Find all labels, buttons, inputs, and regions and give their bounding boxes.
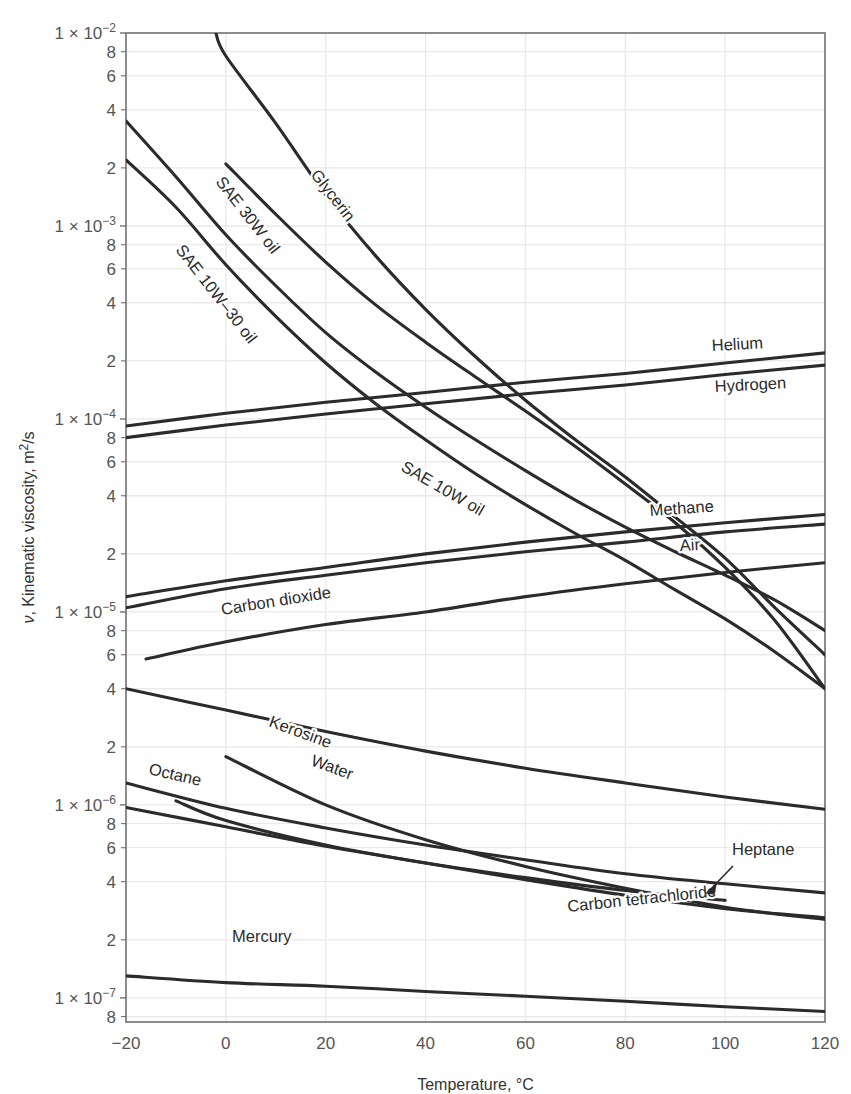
curve-label-helium: HeliumHelium: [711, 333, 763, 354]
y-tick-label-minor: 8: [107, 815, 116, 834]
curve-label-text: Mercury: [232, 927, 292, 945]
curve-label-heptane: HeptaneHeptane: [732, 840, 794, 858]
y-tick-label-minor: 8: [107, 1008, 116, 1027]
y-tick-label-minor: 2: [107, 545, 116, 564]
y-tick-label-minor: 8: [107, 622, 116, 641]
y-tick-label-minor: 4: [107, 873, 116, 892]
y-tick-label-minor: 2: [107, 931, 116, 950]
y-tick-label-minor: 6: [107, 646, 116, 665]
x-tick-label: 60: [516, 1034, 535, 1053]
curve-label-text: Air: [679, 535, 701, 554]
y-tick-label-minor: 2: [107, 159, 116, 178]
curve-label-hydrogen: HydrogenHydrogen: [714, 373, 786, 395]
y-tick-label-minor: 6: [107, 67, 116, 86]
y-tick-label-minor: 8: [107, 236, 116, 255]
y-tick-label-minor: 4: [107, 294, 116, 313]
y-tick-label-minor: 4: [107, 101, 116, 120]
y-tick-label-minor: 4: [107, 487, 116, 506]
x-tick-label: 120: [811, 1034, 839, 1053]
curve-label-text: Hydrogen: [714, 373, 786, 395]
y-tick-label-minor: 8: [107, 43, 116, 62]
x-tick-label: −20: [112, 1034, 141, 1053]
kinematic-viscosity-chart: −200204060801001201 × 10−21 × 10−31 × 10…: [0, 0, 851, 1094]
y-tick-label-minor: 8: [107, 429, 116, 448]
curve-label-air: AirAir: [679, 535, 701, 554]
x-tick-label: 80: [616, 1034, 635, 1053]
y-tick-label-minor: 2: [107, 738, 116, 757]
curve-label-text: Helium: [711, 333, 763, 354]
x-tick-label: 100: [711, 1034, 739, 1053]
y-tick-label-minor: 6: [107, 453, 116, 472]
curve-label-mercury: MercuryMercury: [232, 927, 292, 945]
x-tick-label: 40: [416, 1034, 435, 1053]
y-tick-label-minor: 4: [107, 680, 116, 699]
y-tick-label-minor: 6: [107, 839, 116, 858]
x-tick-label: 0: [221, 1034, 230, 1053]
y-axis-title-text: ν, Kinematic viscosity, m2/s: [17, 431, 37, 623]
y-tick-label-minor: 6: [107, 260, 116, 279]
curve-label-text: Heptane: [732, 840, 794, 858]
y-tick-label-minor: 2: [107, 352, 116, 371]
x-tick-label: 20: [316, 1034, 335, 1053]
x-axis-title: Temperature, °C: [417, 1076, 534, 1093]
y-axis-title: ν, Kinematic viscosity, m2/s: [17, 431, 37, 623]
